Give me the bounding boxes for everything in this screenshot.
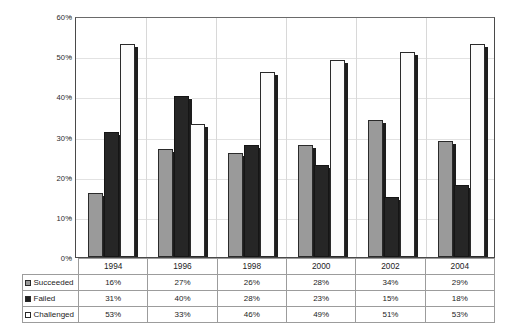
gridline [76,58,494,59]
table-header-year-1996: 1996 [148,259,217,275]
table-header-row: 199419961998200020022004 [23,259,495,275]
bar-body [384,197,399,257]
y-axis: 0%10%20%30%40%50%60% [28,17,72,258]
bar-body [438,141,453,257]
failed-swatch-icon [25,296,31,302]
succeeded-swatch-icon [25,280,31,286]
legend-label: Challenged [34,310,74,319]
bar-body [120,44,135,257]
table-cell-challenged-2004: 53% [425,307,494,323]
bar-shadow [345,63,348,257]
y-axis-tick-mark [68,217,72,218]
chart-page: 0%10%20%30%40%50%60% 1994199619982000200… [0,0,519,335]
bar-challenged-1994 [120,44,138,257]
legend-label: Failed [34,294,56,303]
y-axis-tick-label: 60% [34,13,72,22]
table-cell-challenged-2000: 49% [286,307,355,323]
category-separator [216,18,217,257]
legend-item-succeeded: Succeeded [23,275,79,291]
table-cell-challenged-1998: 46% [217,307,286,323]
y-axis-tick-label: 30% [34,133,72,142]
bar-body [400,52,415,257]
table-cell-failed-2004: 18% [425,291,494,307]
y-axis-tick-label: 50% [34,53,72,62]
table-header-year-2000: 2000 [286,259,355,275]
bar-challenged-2000 [330,60,348,257]
bar-body [228,153,243,257]
y-axis-tick-mark [68,57,72,58]
table-body: Succeeded16%27%26%28%34%29%Failed31%40%2… [23,275,495,323]
y-axis-tick-label: 10% [34,213,72,222]
table-cell-succeeded-2004: 29% [425,275,494,291]
table-header-year-2002: 2002 [356,259,425,275]
bar-shadow [205,127,208,257]
y-axis-tick-label: 40% [34,93,72,102]
category-separator [286,18,287,257]
legend-label: Succeeded [34,278,74,287]
table-cell-challenged-1994: 53% [79,307,148,323]
category-separator [356,18,357,257]
category-separator [146,18,147,257]
gridline [76,139,494,140]
bar-body [174,96,189,257]
bar-shadow [485,47,488,257]
table-cell-challenged-2002: 51% [356,307,425,323]
bar-body [298,145,313,257]
bar-challenged-1998 [260,72,278,257]
table-header-year-1994: 1994 [79,259,148,275]
table-cell-failed-2002: 15% [356,291,425,307]
gridline [76,179,494,180]
y-axis-tick-mark [68,17,72,18]
table-cell-succeeded-1994: 16% [79,275,148,291]
bar-body [190,124,205,257]
table-cell-succeeded-2002: 34% [356,275,425,291]
bar-body [88,193,103,257]
legend-item-challenged: Challenged [23,307,79,323]
bar-challenged-2002 [400,52,418,257]
table-row: Challenged53%33%46%49%51%53% [23,307,495,323]
table-cell-failed-2000: 23% [286,291,355,307]
plot-area [75,17,495,258]
category-separator [426,18,427,257]
gridline [76,98,494,99]
data-table: 199419961998200020022004 Succeeded16%27%… [22,258,495,323]
y-axis-tick-label: 20% [34,173,72,182]
bar-shadow [415,55,418,257]
table-row: Succeeded16%27%26%28%34%29% [23,275,495,291]
table-header-year-2004: 2004 [425,259,494,275]
table-row: Failed31%40%28%23%15%18% [23,291,495,307]
table-cell-failed-1996: 40% [148,291,217,307]
bar-challenged-2004 [470,44,488,257]
table-cell-succeeded-2000: 28% [286,275,355,291]
table-cell-failed-1998: 28% [217,291,286,307]
bar-shadow [135,47,138,257]
challenged-swatch-icon [25,312,31,318]
y-axis-tick-mark [68,97,72,98]
bar-body [314,165,329,257]
bar-body [330,60,345,257]
y-axis-tick-mark [68,177,72,178]
bar-body [260,72,275,257]
table-cell-failed-1994: 31% [79,291,148,307]
gridline [76,219,494,220]
bar-shadow [275,75,278,257]
table-cell-succeeded-1998: 26% [217,275,286,291]
bar-body [454,185,469,257]
bar-body [470,44,485,257]
legend-item-failed: Failed [23,291,79,307]
bar-body [368,120,383,257]
y-axis-tick-mark [68,137,72,138]
table-corner-cell [23,259,79,275]
table-cell-succeeded-1996: 27% [148,275,217,291]
table-header-year-1998: 1998 [217,259,286,275]
bar-body [104,132,119,257]
bar-challenged-1996 [190,124,208,257]
bar-body [244,145,259,257]
bar-body [158,149,173,257]
table-cell-challenged-1996: 33% [148,307,217,323]
